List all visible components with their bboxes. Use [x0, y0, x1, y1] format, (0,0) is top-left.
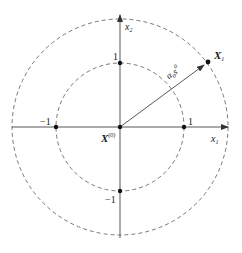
origin-label: X(0) [101, 133, 115, 144]
tick-label-x1-neg: −1 [40, 117, 51, 127]
tick-label-x2-neg: −1 [105, 195, 116, 205]
x2-pos-point [118, 61, 122, 65]
x1-neg-point [54, 125, 58, 129]
tick-label-x1-pos: 1 [188, 117, 193, 127]
x2-neg-point [118, 189, 122, 193]
tick-label-x2-pos: 1 [113, 52, 118, 62]
origin-point [118, 125, 122, 129]
X1-point [206, 60, 211, 65]
x1-axis-label: x1 [211, 134, 218, 144]
optimization-step-diagram [0, 0, 242, 253]
X1-label: X1 [214, 50, 224, 61]
x1-pos-point [182, 125, 186, 129]
x2-axis-label: x2 [125, 22, 132, 32]
